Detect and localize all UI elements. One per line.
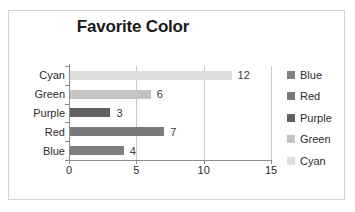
chart-title: Favorite Color [9,17,257,37]
legend-label: Red [300,90,320,102]
legend-swatch-icon [287,135,295,143]
y-axis-label-cyan: Cyan [11,69,65,81]
legend-label: Blue [300,69,322,81]
legend-swatch-icon [287,114,295,122]
legend-item-green[interactable]: Green [287,130,345,149]
chart-container: Favorite Color CyanGreenPurpleRedBlue 12… [8,10,345,200]
legend-label: Green [300,133,331,145]
bar-row: 4 [70,141,136,160]
legend-item-purple[interactable]: Purple [287,108,345,127]
y-axis-tick [65,122,69,123]
y-axis-label-green: Green [11,88,65,100]
y-axis-category-labels: CyanGreenPurpleRedBlue [9,66,65,160]
legend-swatch-icon [287,92,295,100]
chart-legend: BlueRedPurpleGreenCyan [287,65,345,173]
bar-row: 3 [70,104,123,123]
gridline [271,66,272,160]
y-axis-tick [65,85,69,86]
bar-blue [70,146,124,155]
y-axis-label-red: Red [11,126,65,138]
y-axis-tick [65,141,69,142]
bar-green [70,90,151,99]
legend-item-blue[interactable]: Blue [287,65,345,84]
bar-value-label: 3 [116,107,122,119]
y-axis-label-purple: Purple [11,107,65,119]
x-axis-tick-label: 5 [133,164,139,176]
bar-value-label: 12 [238,69,250,81]
bar-row: 7 [70,122,176,141]
legend-label: Cyan [300,155,326,167]
plot-area: 126374 [69,66,271,160]
x-axis-tick-label: 15 [265,164,277,176]
y-axis-tick [65,160,69,161]
bar-purple [70,108,110,117]
y-axis-tick [65,66,69,67]
x-axis-line [69,160,271,161]
legend-item-red[interactable]: Red [287,87,345,106]
bar-row: 12 [70,66,250,85]
y-axis-tick [65,104,69,105]
legend-swatch-icon [287,71,295,79]
legend-label: Purple [300,112,332,124]
x-axis-tick-labels: 051015 [69,164,271,180]
legend-swatch-icon [287,157,295,165]
bar-cyan [70,71,232,80]
y-axis-label-blue: Blue [11,145,65,157]
legend-item-cyan[interactable]: Cyan [287,151,345,170]
bar-value-label: 7 [170,126,176,138]
bar-value-label: 4 [130,145,136,157]
bar-value-label: 6 [157,88,163,100]
bar-row: 6 [70,85,163,104]
bar-red [70,127,164,136]
x-axis-tick-label: 0 [66,164,72,176]
x-axis-tick-label: 10 [198,164,210,176]
